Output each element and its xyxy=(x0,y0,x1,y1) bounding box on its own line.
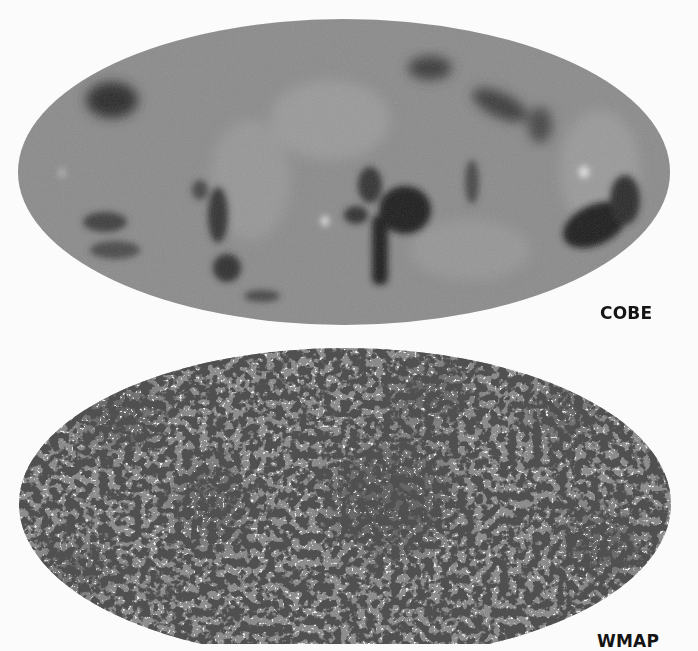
wmap-label: WMAP xyxy=(597,631,659,651)
wmap-sky-map xyxy=(0,334,698,644)
cobe-sky-map xyxy=(0,0,698,335)
cobe-label: COBE xyxy=(600,303,652,323)
